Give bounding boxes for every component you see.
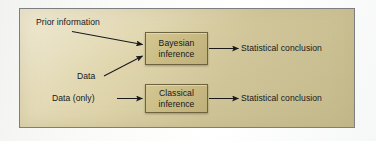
node-classical-line1: Classical xyxy=(159,88,194,99)
node-bayesian-line1: Bayesian xyxy=(159,38,195,49)
label-data: Data xyxy=(77,71,95,82)
node-bayesian-inference: Bayesian inference xyxy=(145,32,208,65)
node-bayesian-line2: inference xyxy=(159,49,195,60)
label-data-only: Data (only) xyxy=(52,93,95,104)
arrow-prior-to-bayesian xyxy=(72,32,143,45)
node-classical-line2: inference xyxy=(159,99,195,110)
node-classical-inference: Classical inference xyxy=(145,84,208,113)
label-statistical-conclusion-classical: Statistical conclusion xyxy=(241,93,322,104)
arrow-data-to-bayesian xyxy=(104,56,143,76)
label-prior-information: Prior information xyxy=(36,17,100,28)
figure-container: Bayesian inference Classical inference P… xyxy=(0,0,376,141)
label-statistical-conclusion-bayesian: Statistical conclusion xyxy=(241,43,322,54)
